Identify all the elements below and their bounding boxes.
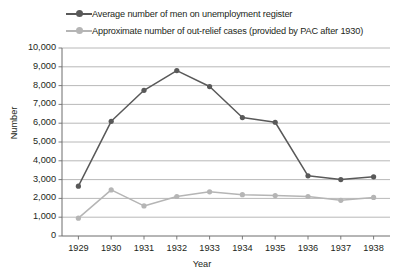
x-axis-tick-label: 1931 [134, 244, 154, 253]
x-axis-tick-label: 1930 [101, 244, 121, 253]
y-axis-tick-label: 4,000 [33, 156, 56, 165]
legend-label-out-relief: Approximate number of out-relief cases (… [92, 26, 363, 36]
data-point [207, 189, 212, 194]
y-axis-tick-label: 5,000 [33, 137, 56, 146]
unemployment-line-chart: Average number of men on unemployment re… [0, 0, 404, 280]
data-point [76, 184, 81, 189]
y-axis-tick-label: 10,000 [28, 43, 56, 52]
series-line [78, 190, 373, 218]
chart-legend: Average number of men on unemployment re… [66, 6, 363, 40]
data-point [141, 203, 146, 208]
data-point [109, 119, 114, 124]
legend-label-men-register: Average number of men on unemployment re… [92, 9, 292, 19]
data-point [207, 84, 212, 89]
data-point [174, 68, 179, 73]
legend-marker-icon [66, 8, 92, 20]
series-line [78, 71, 373, 187]
y-axis-tick-label: 3,000 [33, 175, 56, 184]
y-axis-tick-label: 7,000 [33, 100, 56, 109]
x-axis-tick-label: 1929 [68, 244, 88, 253]
data-point [305, 173, 310, 178]
x-axis-tick-label: 1934 [232, 244, 252, 253]
chart-canvas [62, 48, 390, 236]
legend-item-out-relief: Approximate number of out-relief cases (… [66, 23, 363, 39]
data-point [109, 187, 114, 192]
plot-area: 01,0002,0003,0004,0005,0006,0007,0008,00… [62, 48, 390, 236]
y-axis-tick-label: 9,000 [33, 62, 56, 71]
x-axis-tick-label: 1936 [298, 244, 318, 253]
data-point [273, 193, 278, 198]
x-axis-tick-label: 1932 [167, 244, 187, 253]
data-point [240, 115, 245, 120]
data-point [371, 174, 376, 179]
y-axis-tick-label: 1,000 [33, 213, 56, 222]
x-axis-tick-label: 1935 [265, 244, 285, 253]
data-point [338, 198, 343, 203]
y-axis-tick-label: 6,000 [33, 119, 56, 128]
data-point [305, 194, 310, 199]
legend-item-men-register: Average number of men on unemployment re… [66, 6, 363, 22]
x-axis-title: Year [0, 259, 404, 269]
y-axis-tick-label: 2,000 [33, 194, 56, 203]
y-axis-tick-label: 8,000 [33, 81, 56, 90]
legend-dot-icon [76, 27, 83, 34]
data-point [371, 195, 376, 200]
legend-marker-icon [66, 25, 92, 37]
data-point [240, 192, 245, 197]
y-axis-tick-label: 0 [51, 231, 56, 240]
data-point [141, 88, 146, 93]
x-axis-tick-label: 1937 [331, 244, 351, 253]
data-point [174, 194, 179, 199]
data-point [76, 216, 81, 221]
x-axis-tick-label: 1938 [363, 244, 383, 253]
x-axis-tick-label: 1933 [199, 244, 219, 253]
data-point [273, 120, 278, 125]
data-point [338, 177, 343, 182]
y-axis-title: Number [9, 88, 19, 158]
legend-dot-icon [76, 10, 83, 17]
